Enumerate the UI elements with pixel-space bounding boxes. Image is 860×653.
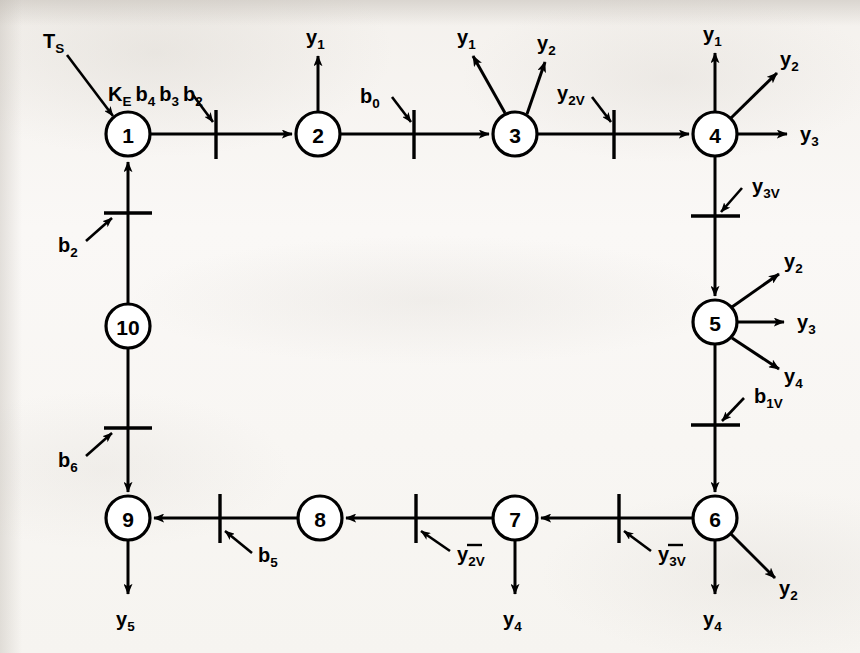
label-out-9-y5: y5: [116, 608, 135, 634]
edge-tick-marks: [104, 110, 740, 543]
label-out-4-y2: y2: [780, 48, 799, 74]
label-y3v: y3V: [752, 175, 780, 201]
node-10-label: 10: [116, 316, 139, 339]
label-out-5-y3: y3: [797, 311, 816, 337]
label-b2: b2: [58, 234, 78, 260]
node-7-label: 7: [509, 508, 521, 531]
node-5[interactable]: 5: [693, 300, 737, 344]
label-out-4-y3: y3: [800, 123, 819, 149]
node-2[interactable]: 2: [296, 112, 340, 156]
node-6-label: 6: [709, 508, 721, 531]
label-b5: b5: [258, 544, 278, 570]
node-2-label: 2: [312, 124, 324, 147]
node-1[interactable]: 1: [106, 112, 150, 156]
diagram-page: 1 2 3 4 5 6 7: [0, 0, 860, 653]
node-8[interactable]: 8: [298, 496, 342, 540]
node-4[interactable]: 4: [693, 112, 737, 156]
node-7[interactable]: 7: [493, 496, 537, 540]
node-9[interactable]: 9: [106, 496, 150, 540]
label-y3v-bar-group: y3V: [658, 543, 686, 569]
pointer-y3v-to-tick: [721, 188, 742, 212]
label-pointer-arrows: [67, 55, 744, 553]
label-out-4-y1: y1: [703, 23, 722, 49]
label-out-2-y1: y1: [306, 26, 325, 52]
out-arrow-5-y4: [732, 338, 779, 369]
label-b0: b0: [360, 85, 380, 111]
node-8-label: 8: [314, 508, 326, 531]
label-out-5-y2: y2: [784, 250, 803, 276]
pointer-b2-to-tick: [86, 218, 112, 241]
node-6[interactable]: 6: [693, 496, 737, 540]
label-b6: b6: [58, 449, 78, 475]
pointer-b5-to-tick: [225, 531, 252, 553]
pointer-y2v-to-tick: [592, 97, 611, 122]
graph-nodes: 1 2 3 4 5 6 7: [106, 112, 737, 540]
label-y2v: y2V: [557, 82, 585, 108]
pointer-b1v-to-tick: [722, 398, 744, 421]
label-out-7-y4: y4: [503, 608, 522, 634]
node-1-label: 1: [122, 124, 134, 147]
node-9-label: 9: [122, 508, 134, 531]
node-3-label: 3: [509, 124, 521, 147]
label-ts: TS: [43, 30, 64, 56]
node-3[interactable]: 3: [493, 112, 537, 156]
ring-edges: [128, 134, 715, 518]
label-out-3-y1: y1: [457, 26, 476, 52]
out-arrow-5-y2: [732, 274, 779, 307]
label-out-5-y4: y4: [784, 365, 803, 391]
label-out-3-y2: y2: [537, 32, 556, 58]
pointer-y3v-bar-to-tick: [624, 531, 651, 551]
out-arrow-3-y2: [527, 62, 545, 114]
out-arrow-6-y2: [731, 534, 775, 578]
label-y2v-bar: y2V: [457, 543, 485, 569]
node-10[interactable]: 10: [106, 304, 150, 348]
label-b1v: b1V: [754, 385, 783, 411]
label-y2v-bar-group: y2V: [457, 543, 485, 569]
pointer-b6-to-tick: [86, 433, 112, 456]
label-out-6-y4: y4: [703, 608, 722, 634]
label-ke-b4-b3-b2: KEb4b3b2: [108, 83, 203, 109]
node-4-label: 4: [709, 124, 721, 147]
pointer-b0-to-tick: [392, 97, 411, 122]
label-out-6-y2: y2: [779, 577, 798, 603]
node-5-label: 5: [709, 312, 721, 335]
pointer-ts-to-node1: [67, 55, 113, 116]
label-y3v-bar: y3V: [658, 543, 686, 569]
pointer-y2v-bar-to-tick: [421, 531, 450, 551]
out-arrow-4-y2: [731, 73, 777, 118]
out-arrow-3-y1: [473, 56, 505, 113]
flow-graph-canvas: 1 2 3 4 5 6 7: [0, 0, 860, 653]
